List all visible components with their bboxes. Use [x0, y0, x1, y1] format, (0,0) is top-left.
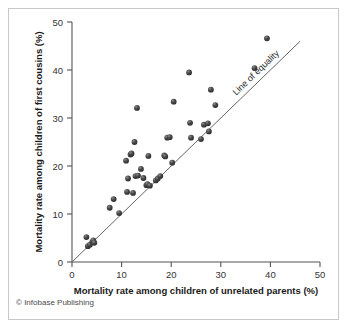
data-point: [157, 173, 163, 179]
data-point: [186, 70, 192, 76]
data-point: [111, 196, 117, 202]
data-point: [188, 135, 194, 141]
copyright-icon: ©: [16, 298, 22, 307]
copyright-text: Infobase Publishing: [24, 298, 94, 307]
y-tick-label: 10: [52, 209, 63, 220]
data-point: [169, 160, 175, 166]
data-point: [91, 240, 97, 246]
data-point: [134, 105, 140, 111]
data-point: [124, 189, 130, 195]
x-tick-label: 30: [216, 269, 227, 280]
data-point: [132, 139, 138, 145]
data-point: [135, 173, 141, 179]
data-point: [206, 129, 212, 135]
data-point: [125, 176, 131, 182]
data-point: [116, 210, 122, 216]
data-point: [147, 183, 153, 189]
scatter-plot: Line of equality 0102030405001020304050M…: [0, 0, 347, 336]
y-tick-label: 0: [58, 257, 63, 268]
x-tick-label: 0: [69, 269, 74, 280]
y-tick-label: 30: [52, 113, 63, 124]
x-axis-title: Mortality rate among children of unrelat…: [74, 285, 318, 296]
y-axis-title: Mortality rate among children of first c…: [33, 31, 44, 252]
equality-line-stroke: [72, 41, 300, 262]
x-tick-label: 20: [166, 269, 177, 280]
axis-labels-layer: 0102030405001020304050Mortality rate amo…: [33, 17, 325, 297]
data-point: [171, 99, 177, 105]
data-point: [107, 205, 113, 211]
figure-container: Line of equality 0102030405001020304050M…: [0, 0, 347, 336]
data-point: [138, 166, 144, 172]
data-point: [145, 153, 151, 159]
data-point: [198, 136, 204, 142]
data-points-layer: [83, 35, 269, 249]
data-point: [83, 234, 89, 240]
data-point: [167, 134, 173, 140]
x-tick-label: 50: [315, 269, 326, 280]
data-point: [205, 120, 211, 126]
data-point: [187, 120, 193, 126]
x-tick-label: 40: [265, 269, 276, 280]
data-point: [123, 158, 129, 164]
y-tick-label: 40: [52, 65, 63, 76]
x-tick-label: 10: [116, 269, 127, 280]
data-point: [141, 175, 147, 181]
y-tick-label: 50: [52, 17, 63, 28]
line-of-equality: Line of equality: [72, 41, 300, 262]
data-point: [208, 87, 214, 93]
data-point: [162, 154, 168, 160]
data-point: [264, 35, 270, 41]
data-point: [130, 190, 136, 196]
data-point: [252, 65, 258, 71]
y-tick-label: 20: [52, 161, 63, 172]
equality-line-label: Line of equality: [231, 48, 282, 98]
copyright-credit: © Infobase Publishing: [16, 298, 94, 307]
data-point: [212, 102, 218, 108]
data-point: [129, 151, 135, 157]
